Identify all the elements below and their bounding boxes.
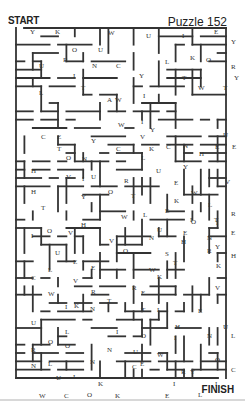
maze-letter: L (48, 360, 52, 368)
maze-letter: H (181, 238, 186, 246)
maze-letter: T (223, 84, 228, 92)
maze-letter: U (56, 374, 61, 382)
maze-letter: N (92, 62, 97, 70)
maze-letter: U (146, 32, 151, 40)
maze-letter: C (116, 62, 121, 70)
maze-letter: V (140, 133, 145, 141)
maze-letter: Y (215, 243, 220, 251)
maze-letter: Y (190, 368, 195, 376)
maze-letter: O (206, 56, 211, 64)
maze-letter: N (183, 142, 188, 150)
maze-letter: E (232, 143, 236, 151)
maze-letter: U (91, 173, 96, 181)
maze-letter: N (31, 362, 36, 370)
maze-letter: L (143, 211, 147, 219)
maze-letter: Y (139, 72, 144, 80)
maze-letter: N (207, 332, 212, 340)
maze-letter: V (73, 277, 78, 285)
maze-letter: H (81, 221, 86, 229)
maze-letter: N (149, 234, 154, 242)
maze-letter: E (141, 289, 145, 297)
maze-letter: R (31, 346, 36, 354)
maze-letter: W (115, 96, 122, 104)
maze-letter: N (207, 234, 212, 242)
maze-letter: C (116, 145, 121, 153)
maze-letter: W (157, 351, 164, 359)
maze-letter: W (118, 121, 125, 129)
maze-letter: U (98, 46, 103, 54)
maze-letter: L (208, 201, 212, 209)
maze-letter: W (191, 189, 198, 197)
maze-letter: R (124, 177, 129, 185)
maze-letter: E (57, 133, 61, 141)
maze-letter: U (156, 167, 161, 175)
maze-letter: R (231, 63, 236, 71)
maze-letter: R (181, 368, 186, 376)
maze-letter: E (140, 360, 144, 368)
maze-letter: I (82, 175, 85, 183)
maze-letter: V (68, 229, 73, 237)
maze-walls (16, 28, 226, 378)
maze-letter: U (157, 226, 162, 234)
maze-letter: R (132, 284, 137, 292)
maze-letter: E (198, 307, 202, 315)
maze-letter: U (133, 348, 138, 356)
maze-letter: U (31, 319, 36, 327)
maze-letter: T (182, 74, 187, 82)
maze-letter: L (65, 328, 69, 336)
maze-letter: O (141, 332, 146, 340)
maze-letter: A (107, 96, 112, 104)
maze-letter: O (87, 391, 92, 399)
maze-letter: N (107, 346, 112, 354)
maze-letter: T (131, 192, 136, 200)
maze-letter: T (107, 297, 112, 305)
maze-letter: U (39, 62, 44, 70)
maze-letter: Y (30, 28, 35, 36)
maze-letter: Y (81, 193, 86, 201)
maze-letter: S (165, 250, 169, 258)
maze-letter: L (141, 154, 145, 162)
maze-letter: W (121, 213, 128, 221)
maze-letter: W (149, 266, 156, 274)
maze-letter: R (231, 210, 236, 218)
maze-letter: H (175, 323, 180, 331)
maze-letter: I (174, 334, 177, 342)
maze-letter: L (48, 266, 52, 274)
maze-letter: H (231, 252, 236, 260)
maze-letter: T (214, 216, 219, 224)
maze-letter: V (66, 173, 71, 181)
maze-letter: V (215, 284, 220, 292)
maze-letter: H (31, 188, 36, 196)
bottom-divider (0, 399, 245, 401)
maze-letter: O (108, 188, 113, 196)
maze-letter: E (174, 179, 178, 187)
maze-letter: L (157, 306, 161, 314)
maze-letter: R (207, 247, 212, 255)
maze-letter: O (48, 338, 53, 346)
maze-letter: L (231, 332, 235, 340)
maze-letter: W (198, 84, 205, 92)
maze-letter: C (166, 143, 171, 151)
maze-letter: I (143, 92, 146, 100)
maze-letter: W (108, 29, 115, 37)
maze-letter: U (223, 131, 228, 139)
maze-letter: E (73, 258, 77, 266)
maze-letter: C (231, 366, 236, 374)
maze-letter: T (141, 306, 146, 314)
maze-letter: Y (234, 74, 239, 82)
maze-letter: H (199, 150, 204, 158)
maze-letter: K (174, 197, 179, 205)
maze-letter: E (215, 143, 219, 151)
maze-letter: Y (91, 137, 96, 145)
maze-letter: E (165, 207, 169, 215)
maze-letter: C (41, 133, 46, 141)
maze-letter: U (55, 249, 60, 257)
maze-letter: H (31, 167, 36, 175)
maze-grid[interactable]: YKWUIEYOUKORUNCLRIYYTLTWTAWIWIYCEYVUTCKC… (0, 0, 245, 400)
maze-letter: L (165, 58, 169, 66)
maze-letter: C (132, 363, 137, 371)
maze-letter: Y (183, 163, 188, 171)
maze-letter: T (41, 204, 46, 212)
maze-letter: O (72, 46, 77, 54)
maze-letter: I (173, 380, 176, 388)
